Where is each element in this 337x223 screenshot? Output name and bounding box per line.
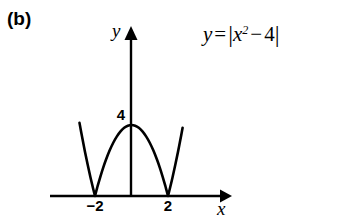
y-axis-label: y xyxy=(112,21,120,40)
x-tick-label-negative-two: −2 xyxy=(80,198,110,213)
equation-annotation: y=|x2−4| xyxy=(203,22,279,46)
equation-close-bar: | xyxy=(275,21,280,47)
equation-base: x xyxy=(233,22,242,46)
plot-canvas xyxy=(0,0,337,223)
figure-panel: (b) y x −2 2 4 y=|x2−4| xyxy=(0,0,337,223)
equation-lhs: y xyxy=(203,22,212,46)
equation-constant: 4 xyxy=(264,22,275,46)
x-axis-label: x xyxy=(217,199,225,218)
equation-relation: = xyxy=(212,22,228,46)
equation-minus: − xyxy=(248,22,264,46)
x-tick-label-positive-two: 2 xyxy=(155,198,181,213)
y-axis-arrowhead xyxy=(125,26,138,40)
axes-group xyxy=(50,26,232,203)
y-tick-label-four: 4 xyxy=(109,107,125,122)
